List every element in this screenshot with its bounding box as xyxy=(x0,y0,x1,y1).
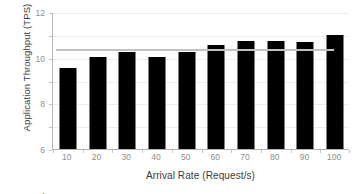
x-tick-label: 80 xyxy=(270,152,279,162)
y-tick-mark: 10 xyxy=(49,36,52,37)
x-tick-mark xyxy=(142,150,143,153)
x-tick-label: 40 xyxy=(151,152,160,162)
x-tick-mark xyxy=(53,150,54,153)
y-tick-mark: 8 xyxy=(49,59,52,60)
x-tick-label: 20 xyxy=(92,152,101,162)
x-tick-label: 10 xyxy=(62,152,71,162)
y-tick-mark: 6 xyxy=(49,82,52,83)
x-tick-label: 50 xyxy=(181,152,190,162)
x-tick-mark xyxy=(349,150,350,153)
bar[interactable] xyxy=(59,68,76,149)
y-axis-title: Application Throughput (TPS) xyxy=(21,0,32,148)
y-tick-label: 4 xyxy=(40,191,45,194)
bar[interactable] xyxy=(327,35,344,149)
x-tick-mark xyxy=(202,150,203,153)
x-tick-mark xyxy=(261,150,262,153)
bar-slot xyxy=(202,13,232,149)
bars-layer xyxy=(53,13,349,149)
reference-line xyxy=(56,49,335,51)
y-tick-mark: 0 xyxy=(49,150,52,151)
x-tick-mark xyxy=(320,150,321,153)
bar[interactable] xyxy=(119,52,136,149)
bar-slot xyxy=(261,13,291,149)
x-tick-label: 60 xyxy=(211,152,220,162)
y-tick-label: 12 xyxy=(36,8,45,18)
y-tick-label: 8 xyxy=(40,99,45,109)
bar[interactable] xyxy=(208,45,225,149)
bar-slot xyxy=(172,13,202,149)
bar[interactable] xyxy=(178,52,195,149)
bar[interactable] xyxy=(238,41,255,149)
bar[interactable] xyxy=(148,57,165,149)
x-tick-mark xyxy=(83,150,84,153)
bar-slot xyxy=(320,13,350,149)
plot-area: 024681012 xyxy=(52,13,349,150)
y-tick-label: 6 xyxy=(40,145,45,155)
bar-slot xyxy=(231,13,261,149)
y-tick-mark: 12 xyxy=(49,13,52,14)
bar-slot xyxy=(53,13,83,149)
x-tick-label: 100 xyxy=(327,152,341,162)
x-tick-label: 70 xyxy=(240,152,249,162)
bar-slot xyxy=(142,13,172,149)
x-tick-mark xyxy=(172,150,173,153)
x-tick-mark xyxy=(112,150,113,153)
bar-chart: Application Throughput (TPS) 024681012 1… xyxy=(0,0,359,194)
bar[interactable] xyxy=(297,42,314,149)
x-axis-title: Arrival Rate (Request/s) xyxy=(52,170,349,181)
bar-slot xyxy=(112,13,142,149)
bar[interactable] xyxy=(267,41,284,149)
y-tick-mark: 4 xyxy=(49,104,52,105)
bar-slot xyxy=(291,13,321,149)
x-tick-mark xyxy=(291,150,292,153)
bar[interactable] xyxy=(89,57,106,149)
y-tick-label: 10 xyxy=(36,54,45,64)
bar-slot xyxy=(83,13,113,149)
x-tick-mark xyxy=(231,150,232,153)
y-tick-mark: 2 xyxy=(49,127,52,128)
x-tick-label: 30 xyxy=(122,152,131,162)
x-tick-label: 90 xyxy=(300,152,309,162)
